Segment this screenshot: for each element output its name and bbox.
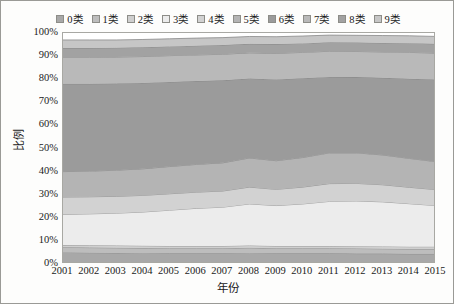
legend-swatch-icon-2 [127,15,135,23]
legend-label-9: 9类 [385,14,400,25]
legend-label-3: 3类 [173,14,188,25]
y-tick-label-1: 10% [6,235,62,245]
legend-item-1[interactable]: 1类 [92,14,118,25]
legend-swatch-icon-3 [162,15,170,23]
legend-item-5[interactable]: 5类 [233,14,259,25]
y-tick-label-10: 100% [6,27,62,37]
legend-item-3[interactable]: 3类 [162,14,188,25]
x-tick-label-10: 2011 [318,265,339,277]
chart-legend: 0类1类2类3类4类5类6类7类8类9类 [1,10,454,28]
legend-item-9[interactable]: 9类 [374,14,400,25]
legend-label-4: 4类 [208,14,223,25]
plot-area [62,32,435,263]
legend-label-0: 0类 [67,14,82,25]
x-tick-label-13: 2014 [398,265,419,277]
x-tick-label-1: 2002 [78,265,99,277]
y-tick-label-2: 20% [6,212,62,222]
x-tick-label-4: 2005 [158,265,179,277]
stacked-area-svg [63,33,435,263]
legend-swatch-icon-1 [92,15,100,23]
x-axis-tick-labels: 2001200220032004200520062007200820092010… [62,265,435,279]
x-axis-title: 年份 [1,279,454,295]
chart-figure: 0类1类2类3类4类5类6类7类8类9类 0%10%20%30%40%50%60… [0,0,454,304]
legend-label-7: 7类 [314,14,329,25]
legend-swatch-icon-4 [197,15,205,23]
x-tick-label-12: 2013 [371,265,392,277]
legend-item-2[interactable]: 2类 [127,14,153,25]
x-tick-label-2: 2003 [105,265,126,277]
x-tick-label-7: 2008 [238,265,259,277]
y-tick-label-3: 30% [6,189,62,199]
legend-label-6: 6类 [279,14,294,25]
legend-label-5: 5类 [244,14,259,25]
y-axis-title: 比例 [10,110,26,170]
legend-swatch-icon-9 [374,15,382,23]
legend-item-8[interactable]: 8类 [338,14,364,25]
area-series-0 [63,252,435,263]
legend-item-4[interactable]: 4类 [197,14,223,25]
legend-label-2: 2类 [138,14,153,25]
legend-label-1: 1类 [103,14,118,25]
y-tick-label-9: 90% [6,50,62,60]
y-tick-label-7: 70% [6,96,62,106]
x-tick-label-11: 2012 [345,265,366,277]
legend-swatch-icon-5 [233,15,241,23]
legend-item-6[interactable]: 6类 [268,14,294,25]
legend-swatch-icon-6 [268,15,276,23]
x-tick-label-14: 2015 [425,265,446,277]
legend-label-8: 8类 [349,14,364,25]
legend-item-7[interactable]: 7类 [303,14,329,25]
x-tick-label-6: 2007 [211,265,232,277]
x-tick-label-8: 2009 [265,265,286,277]
y-tick-label-8: 80% [6,73,62,83]
legend-swatch-icon-7 [303,15,311,23]
x-tick-label-5: 2006 [185,265,206,277]
x-tick-label-9: 2010 [291,265,312,277]
legend-swatch-icon-8 [338,15,346,23]
x-tick-label-3: 2004 [131,265,152,277]
x-tick-label-0: 2001 [52,265,73,277]
